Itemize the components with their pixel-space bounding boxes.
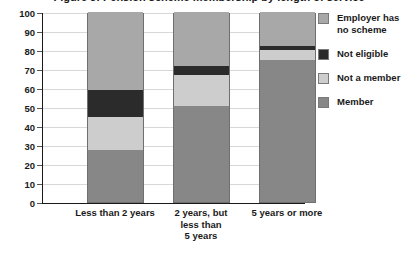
y-axis-tick-label: 40 [9,127,35,128]
bar-segment[interactable] [174,106,229,202]
y-axis-tick [37,108,42,109]
y-axis-tick-label: 10 [9,184,35,185]
y-axis-tick [37,32,42,33]
legend-swatch-icon [318,49,329,60]
y-axis-title: Percentage [1,62,15,182]
y-axis-tick-label: 30 [9,146,35,147]
plot-area: 0102030405060708090100 Less than 2 years… [43,13,305,203]
bar-segment[interactable] [260,12,315,46]
legend-label: Member [337,96,373,108]
y-axis-tick-label: 90 [9,32,35,33]
y-axis-tick [37,51,42,52]
y-axis-tick [37,203,42,204]
y-axis-tick-label: 50 [9,108,35,109]
y-axis-tick-label: 0 [9,203,35,204]
bar-segment[interactable] [174,75,229,106]
legend-swatch-icon [318,97,329,108]
bar-segment[interactable] [88,90,143,117]
legend-item[interactable]: Not a member [318,72,418,84]
bar-segment[interactable] [88,117,143,150]
legend-swatch-icon [318,13,329,24]
stacked-bar-chart: Figure 5: Pension scheme membership by l… [0,0,418,254]
y-axis-tick [37,13,42,14]
legend-label: Not a member [337,72,400,84]
bar-segment[interactable] [260,50,315,60]
bar-segment[interactable] [88,12,143,90]
y-axis-tick-label: 20 [9,165,35,166]
bar-segment[interactable] [260,46,315,50]
x-axis-label: 5 years or more [232,207,342,219]
legend-label: Not eligible [337,48,388,60]
y-axis-tick [37,165,42,166]
legend-item[interactable]: Not eligible [318,48,418,60]
chart-title: Figure 5: Pension scheme membership by l… [0,0,418,3]
bar-stack[interactable] [173,13,230,203]
bar-segment[interactable] [174,66,229,75]
bar-stack[interactable] [87,13,144,203]
y-axis-tick [37,127,42,128]
y-axis-tick-label: 100 [9,13,35,14]
bar-segment[interactable] [88,150,143,202]
y-axis-tick-label: 70 [9,70,35,71]
y-axis-tick [37,70,42,71]
gridline [43,203,305,204]
y-axis-tick-label: 80 [9,51,35,52]
legend-swatch-icon [318,73,329,84]
legend-item[interactable]: Member [318,96,418,108]
legend-item[interactable]: Employer has no scheme [318,12,418,35]
y-axis-tick [37,184,42,185]
legend-label: Employer has no scheme [337,12,399,35]
y-axis-tick [37,89,42,90]
bar-stack[interactable] [259,13,316,203]
y-axis-tick [37,146,42,147]
y-axis-tick-label: 60 [9,89,35,90]
bar-segment[interactable] [174,12,229,66]
bar-segment[interactable] [260,60,315,203]
